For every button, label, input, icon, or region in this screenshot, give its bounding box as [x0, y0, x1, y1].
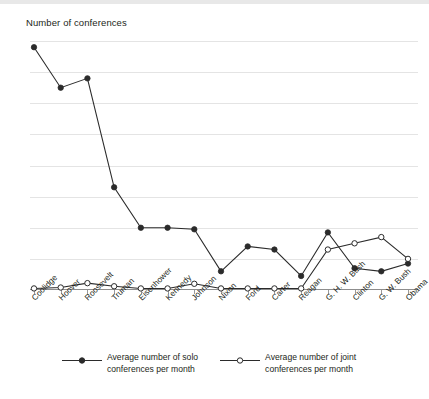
data-point[interactable]: [325, 230, 330, 235]
data-point[interactable]: [111, 185, 116, 190]
data-point[interactable]: [138, 225, 143, 230]
legend-label: Average number of joint conferences per …: [265, 352, 356, 375]
data-point[interactable]: [165, 225, 170, 230]
chart-legend: Average number of solo conferences per m…: [62, 352, 402, 375]
data-point[interactable]: [31, 45, 36, 50]
legend-entry[interactable]: Average number of solo conferences per m…: [62, 352, 198, 375]
data-point[interactable]: [192, 227, 197, 232]
data-point[interactable]: [58, 85, 63, 90]
data-point[interactable]: [352, 241, 357, 246]
data-point[interactable]: [272, 247, 277, 252]
series-layer: [30, 41, 418, 290]
data-point[interactable]: [192, 281, 197, 286]
data-point[interactable]: [379, 269, 384, 274]
data-point[interactable]: [218, 269, 223, 274]
legend-label: Average number of solo conferences per m…: [107, 352, 198, 375]
chart-axis-title: Number of conferences: [26, 17, 127, 28]
data-point[interactable]: [325, 247, 330, 252]
legend-open-marker-icon: [220, 356, 260, 365]
legend-entry[interactable]: Average number of joint conferences per …: [220, 352, 356, 375]
plot-area: 875643210: [30, 41, 418, 290]
data-point[interactable]: [245, 244, 250, 249]
line-chart: Number of conferences 875643210 Coolidge…: [0, 0, 429, 399]
data-point[interactable]: [85, 76, 90, 81]
data-point[interactable]: [298, 273, 303, 278]
legend-solid-marker-icon: [62, 356, 102, 365]
data-point[interactable]: [85, 280, 90, 285]
data-point[interactable]: [405, 256, 410, 261]
data-point[interactable]: [379, 234, 384, 239]
